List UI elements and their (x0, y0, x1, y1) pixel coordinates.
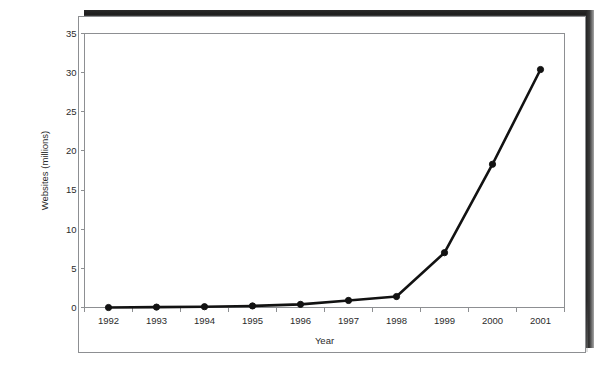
series-line (109, 70, 541, 308)
data-point-marker (297, 301, 303, 307)
y-tick-label: 15 (66, 184, 77, 195)
y-tick-label: 25 (66, 106, 77, 117)
chart-canvas: 05101520253035 1992199319941995199619971… (0, 0, 603, 370)
data-point-marker (489, 161, 495, 167)
data-point-marker (345, 297, 351, 303)
data-point-marker (249, 303, 255, 309)
data-series-websites (105, 66, 543, 310)
y-axis-ticks (81, 34, 85, 308)
x-axis-title: Year (315, 335, 334, 346)
y-tick-label: 0 (71, 302, 76, 313)
y-tick-label: 35 (66, 28, 77, 39)
x-tick-label: 2000 (482, 315, 503, 326)
data-point-marker (393, 293, 399, 299)
data-point-marker (441, 250, 447, 256)
x-tick-label: 1996 (290, 315, 311, 326)
x-tick-label: 1994 (194, 315, 215, 326)
y-tick-label: 30 (66, 67, 77, 78)
x-tick-label: 1995 (242, 315, 263, 326)
x-tick-label: 1999 (434, 315, 455, 326)
data-point-marker (105, 304, 111, 310)
x-tick-label: 1997 (338, 315, 359, 326)
y-tick-label: 10 (66, 224, 77, 235)
plot-area-border (85, 34, 565, 308)
x-tick-label: 1998 (386, 315, 407, 326)
line-chart: 05101520253035 1992199319941995199619971… (0, 0, 603, 370)
x-tick-label: 1993 (146, 315, 167, 326)
data-point-marker (153, 304, 159, 310)
page-background: 05101520253035 1992199319941995199619971… (0, 0, 603, 370)
x-tick-label: 2001 (530, 315, 551, 326)
y-axis-tick-labels: 05101520253035 (66, 28, 77, 313)
x-axis-tick-labels: 1992199319941995199619971998199920002001 (98, 315, 551, 326)
x-tick-label: 1992 (98, 315, 119, 326)
y-axis-title: Websites (millions) (39, 131, 50, 211)
data-point-marker (201, 304, 207, 310)
y-tick-label: 5 (71, 263, 76, 274)
data-point-marker (537, 66, 543, 72)
y-tick-label: 20 (66, 145, 77, 156)
